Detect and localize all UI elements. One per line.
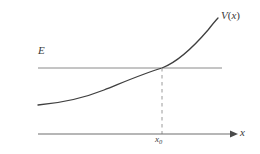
energy-level-label: E	[38, 45, 45, 56]
potential-paren-close: )	[236, 9, 240, 21]
turning-point-label: x0	[155, 135, 162, 145]
x-axis-arrowhead-icon	[230, 130, 238, 137]
diagram-canvas	[0, 0, 260, 154]
potential-symbol: V	[221, 9, 228, 21]
x-axis-label: x	[240, 127, 245, 138]
turning-point-subscript: 0	[159, 138, 162, 145]
potential-curve-label: V(x)	[221, 10, 240, 21]
potential-energy-diagram: E V(x) x x0	[0, 0, 260, 154]
potential-curve	[38, 18, 218, 105]
